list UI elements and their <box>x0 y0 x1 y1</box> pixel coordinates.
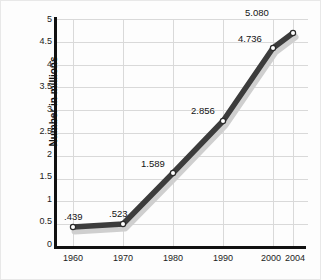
data-point-marker <box>120 221 125 226</box>
data-point-marker <box>290 30 295 35</box>
data-point-marker <box>70 224 75 229</box>
series-line <box>73 33 293 227</box>
data-series-layer <box>1 1 321 280</box>
data-point-label: 5.080 <box>245 8 269 18</box>
x-tick-label: 1990 <box>203 253 243 264</box>
data-point-label: .523 <box>109 209 128 219</box>
data-point-marker <box>270 45 275 50</box>
data-point-marker <box>220 118 225 123</box>
x-tick-label: 1970 <box>103 253 143 264</box>
data-point-label: 1.589 <box>141 159 165 169</box>
x-tick-label: 2004 <box>275 253 315 264</box>
x-tick-label: 1960 <box>53 253 93 264</box>
data-point-marker <box>170 170 175 175</box>
data-point-label: 2.856 <box>191 106 215 116</box>
data-point-label: 4.736 <box>238 34 262 44</box>
chart-canvas: Number in millions 5 4.5 4 3.5 3 2.5 2 1… <box>1 1 321 280</box>
data-point-label: .439 <box>64 212 83 222</box>
x-tick-label: 1980 <box>153 253 193 264</box>
line-chart-figure: Number in millions 5 4.5 4 3.5 3 2.5 2 1… <box>0 0 321 280</box>
